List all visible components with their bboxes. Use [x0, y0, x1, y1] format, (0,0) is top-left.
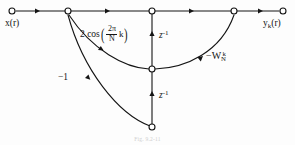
- arrowhead-input: [35, 8, 40, 13]
- input-signal-label: x(r): [5, 19, 19, 29]
- twiddle-gain-label: −WNk: [206, 51, 226, 63]
- arrowhead-junction-right: [105, 8, 110, 13]
- node-state-top: [149, 8, 155, 14]
- figure-caption: Fig. 9.2-11: [0, 136, 295, 142]
- arrowhead-delay-bottom: [149, 91, 154, 96]
- delay-bottom-label: z-1: [159, 90, 169, 100]
- output-signal-label: yk(r): [263, 19, 281, 30]
- flow-graph-canvas: [0, 0, 295, 145]
- cos-lead: 2 cos: [80, 30, 100, 40]
- arrowhead-feedback-negative-one: [85, 75, 90, 80]
- negative-one-gain-label: −1: [58, 73, 68, 83]
- arrowhead-delay-top: [149, 31, 154, 36]
- node-output-junction: [231, 8, 237, 14]
- delay-top-label: z-1: [159, 30, 169, 40]
- fraction-numerator: 2π: [107, 25, 116, 33]
- fraction-denominator: N: [109, 35, 116, 43]
- feedback-gain-label: 2 cos(2πNk): [80, 24, 129, 44]
- arrowhead-state-top-right: [189, 8, 194, 13]
- node-output: [280, 8, 286, 14]
- two-pi-over-n-fraction: 2πN: [106, 25, 117, 43]
- arrowhead-output: [258, 8, 263, 13]
- cos-k-variable: k: [119, 30, 124, 39]
- node-input: [9, 8, 15, 14]
- node-state-mid: [149, 66, 155, 72]
- node-state-bottom: [149, 124, 155, 130]
- signal-flow-graph-figure: x(r) yk(r) z-1 z-1 2 cos(2πNk) −1 −WNk F…: [0, 0, 295, 145]
- node-summing-junction: [65, 8, 71, 14]
